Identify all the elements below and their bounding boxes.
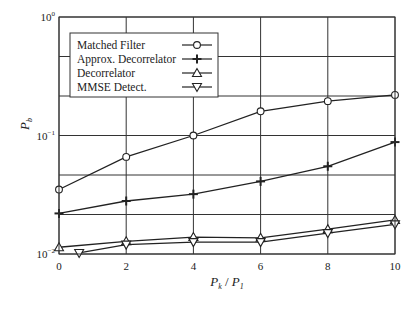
- circle-marker: [190, 132, 197, 139]
- x-tick-label: 0: [56, 260, 62, 272]
- series-matched-filter: [56, 92, 399, 193]
- legend-label: Matched Filter: [77, 39, 145, 51]
- circle-marker: [324, 98, 331, 105]
- plus-marker: [323, 162, 332, 171]
- plus-marker: [256, 177, 265, 186]
- series-approx-decorrelator: [55, 138, 400, 218]
- legend-label: MMSE Detect.: [77, 81, 147, 93]
- x-tick-labels: 0246810: [56, 260, 401, 272]
- series-line: [59, 220, 395, 247]
- x-tick-label: 2: [123, 260, 129, 272]
- circle-marker: [123, 153, 130, 160]
- legend: Matched FilterApprox. DecorrelatorDecorr…: [70, 33, 218, 97]
- x-tick-label: 8: [325, 260, 331, 272]
- series-decorrelator: [55, 215, 400, 250]
- triangle-down-marker: [75, 249, 84, 257]
- x-tick-label: 10: [390, 260, 402, 272]
- chart: 0246810 10010−110−2 Matched FilterApprox…: [0, 0, 414, 309]
- y-tick-label: 100: [41, 10, 56, 23]
- legend-label: Approx. Decorrelator: [77, 53, 176, 66]
- plus-marker: [122, 197, 131, 206]
- plus-marker: [189, 190, 198, 199]
- y-tick-label: 10−2: [37, 247, 56, 260]
- circle-marker: [194, 42, 201, 49]
- circle-marker: [257, 108, 264, 115]
- x-axis-label: Pk / P1: [209, 274, 244, 291]
- y-tick-label: 10−1: [37, 129, 56, 142]
- y-axis-label: Pb: [17, 118, 34, 131]
- x-tick-label: 6: [258, 260, 264, 272]
- x-tick-label: 4: [191, 260, 197, 272]
- legend-label: Decorrelator: [77, 67, 135, 79]
- series-line: [59, 142, 395, 213]
- y-tick-labels: 10010−110−2: [37, 10, 56, 260]
